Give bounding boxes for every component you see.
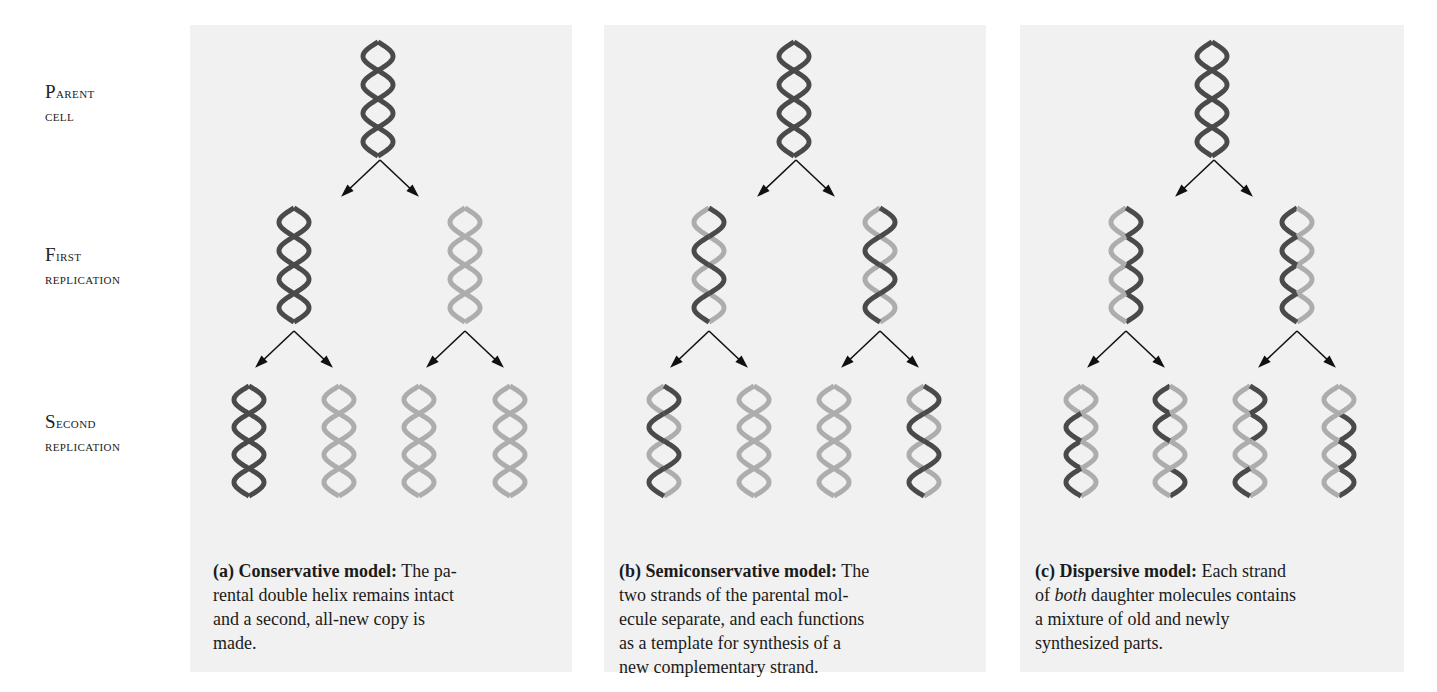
row-label-second-replication: Second replication: [45, 410, 120, 458]
old-strand-segment: [1339, 414, 1354, 442]
new-strand-segment: [739, 386, 754, 414]
new-strand-segment: [664, 414, 679, 442]
dna-double-helix-icon: [279, 208, 309, 322]
old-strand-segment: [1197, 99, 1212, 128]
new-strand-segment: [339, 441, 354, 469]
old-strand-segment: [880, 208, 895, 237]
new-strand-segment: [324, 414, 339, 442]
new-strand-segment: [419, 414, 434, 442]
new-strand-segment: [495, 441, 510, 469]
old-strand-segment: [1282, 294, 1297, 323]
old-strand-segment: [1155, 414, 1170, 442]
old-strand-segment: [1126, 208, 1141, 237]
old-strand-segment: [279, 265, 294, 294]
new-strand-segment: [834, 414, 849, 442]
new-strand-segment: [1250, 441, 1265, 469]
caption-line: new complementary strand.: [619, 657, 818, 677]
row-label-line1: Parent: [45, 80, 95, 105]
caption-line: The pa-: [401, 561, 456, 581]
new-strand-segment: [339, 469, 354, 497]
new-strand-segment: [834, 469, 849, 497]
old-strand-segment: [794, 71, 809, 100]
old-strand-segment: [1282, 208, 1297, 237]
new-strand-segment: [1235, 414, 1250, 442]
new-strand-segment: [1170, 386, 1185, 414]
new-strand-segment: [1235, 441, 1250, 469]
new-strand-segment: [1324, 469, 1339, 497]
old-strand-segment: [709, 265, 724, 294]
old-strand-segment: [794, 128, 809, 157]
old-strand-segment: [794, 99, 809, 128]
new-strand-segment: [324, 469, 339, 497]
old-strand-segment: [779, 128, 794, 157]
new-strand-segment: [1066, 386, 1081, 414]
new-strand-segment: [754, 414, 769, 442]
row-label-parent-cell: Parent cell: [45, 80, 95, 128]
old-strand-segment: [694, 294, 709, 323]
new-strand-segment: [865, 208, 880, 237]
dna-double-helix-icon: [819, 386, 849, 496]
new-strand-segment: [1170, 414, 1185, 442]
new-strand-segment: [404, 469, 419, 497]
caption-line: synthesized parts.: [1035, 633, 1163, 653]
dna-double-helix-icon: [1155, 386, 1185, 496]
replication-arrows-icon: [1087, 331, 1165, 368]
old-strand-segment: [1066, 414, 1081, 442]
old-strand-segment: [1282, 265, 1297, 294]
old-strand-segment: [649, 469, 664, 497]
new-strand-segment: [450, 294, 465, 323]
old-strand-segment: [664, 386, 679, 414]
row-label-line1: First: [45, 243, 120, 268]
dna-double-helix-icon: [694, 208, 724, 322]
caption-line: The: [841, 561, 869, 581]
old-strand-segment: [1197, 128, 1212, 157]
new-strand-segment: [924, 414, 939, 442]
old-strand-segment: [880, 265, 895, 294]
row-label-line1: Second: [45, 410, 120, 435]
new-strand-segment: [495, 414, 510, 442]
new-strand-segment: [419, 441, 434, 469]
replication-arrows-icon: [841, 331, 919, 368]
new-strand-segment: [1324, 414, 1339, 442]
new-strand-segment: [819, 469, 834, 497]
new-strand-segment: [819, 386, 834, 414]
new-strand-segment: [1081, 414, 1096, 442]
new-strand-segment: [1155, 441, 1170, 469]
old-strand-segment: [294, 208, 309, 237]
old-strand-segment: [779, 71, 794, 100]
new-strand-segment: [649, 441, 664, 469]
new-strand-segment: [1111, 265, 1126, 294]
old-strand-segment: [1339, 441, 1354, 469]
old-strand-segment: [1250, 414, 1265, 442]
old-strand-segment: [779, 99, 794, 128]
old-strand-segment: [1282, 237, 1297, 266]
old-strand-segment: [1126, 237, 1141, 266]
new-strand-segment: [880, 237, 895, 266]
caption-line: made.: [213, 633, 256, 653]
new-strand-segment: [865, 265, 880, 294]
new-strand-segment: [880, 294, 895, 323]
new-strand-segment: [465, 237, 480, 266]
old-strand-segment: [234, 441, 249, 469]
old-strand-segment: [1126, 265, 1141, 294]
dna-double-helix-icon: [1282, 208, 1312, 322]
dna-double-helix-icon: [363, 42, 393, 156]
new-strand-segment: [1297, 208, 1312, 237]
old-strand-segment: [664, 441, 679, 469]
old-strand-segment: [1212, 42, 1227, 71]
panel-conservative-model: (a) Conservative model: The pa- rental d…: [190, 25, 572, 672]
dna-double-helix-icon: [234, 386, 264, 496]
caption-line: as a template for synthesis of a: [619, 633, 841, 653]
new-strand-segment: [1235, 386, 1250, 414]
old-strand-segment: [779, 42, 794, 71]
replication-arrows-icon: [426, 331, 504, 368]
new-strand-segment: [495, 469, 510, 497]
old-strand-segment: [1339, 469, 1354, 497]
dna-double-helix-icon: [1111, 208, 1141, 322]
replication-arrows-icon: [1175, 160, 1253, 197]
dna-double-helix-icon: [450, 208, 480, 322]
caption-title: Dispersive model:: [1059, 561, 1196, 581]
row-label-line2: cell: [45, 108, 74, 124]
replication-arrows-icon: [670, 331, 748, 368]
old-strand-segment: [234, 469, 249, 497]
